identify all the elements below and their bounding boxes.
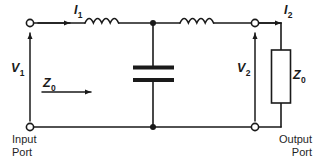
input-port-line1: Input	[12, 133, 36, 146]
label-input-port: Input Port	[12, 133, 36, 158]
circuit-diagram: I1 I2 V1 V2 Z0 Z0 Input Port Output Port	[0, 0, 319, 165]
junction-dot-bottom	[150, 124, 156, 130]
inductor-series-left	[85, 19, 119, 24]
input-port-line2: Port	[12, 146, 36, 159]
terminal-output-top	[251, 19, 258, 26]
label-output-port: Output Port	[250, 133, 312, 158]
terminal-input-bottom	[26, 123, 33, 130]
terminal-output-bottom	[251, 123, 258, 130]
label-voltage-v2: V2	[237, 61, 250, 78]
label-current-i1: I1	[74, 3, 83, 20]
output-port-line2: Port	[250, 146, 312, 159]
label-current-i2: I2	[284, 3, 293, 20]
capacitor-shunt	[133, 66, 174, 83]
capacitor-plate-top	[133, 66, 174, 70]
output-port-line1: Output	[250, 133, 312, 146]
resistor-load	[272, 50, 291, 103]
terminal-input-top	[26, 19, 33, 26]
label-impedance-z0-load: Z0	[293, 68, 306, 85]
label-voltage-v1: V1	[11, 61, 24, 78]
junction-dot-top	[150, 20, 156, 26]
inductor-series-right	[180, 19, 214, 24]
label-impedance-z0-input: Z0	[43, 76, 56, 93]
capacitor-plate-bottom	[133, 78, 174, 82]
